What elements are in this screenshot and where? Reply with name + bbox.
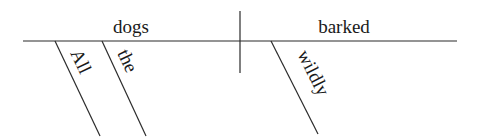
predicate-word: barked <box>318 16 370 37</box>
modifier-word-the: the <box>113 46 142 76</box>
sentence-diagram: dogs barked All the wildly <box>0 0 477 139</box>
modifier-word-all: All <box>66 46 95 77</box>
modifier-word-wildly: wildly <box>293 46 334 99</box>
subject-word: dogs <box>113 16 149 37</box>
